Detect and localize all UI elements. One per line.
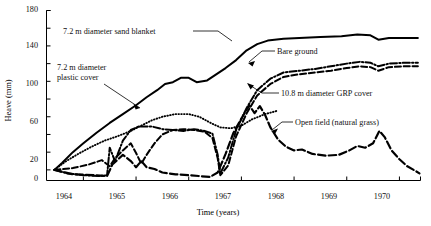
x-tick-label-1966: 1966	[150, 192, 190, 201]
chart-series-group	[54, 34, 419, 177]
y-tick-label-140: 140	[8, 41, 38, 50]
heave-vs-time-chart: Heave (mm) Time (years) 180 140 100 60 2…	[0, 0, 431, 226]
y-tick-label-180: 180	[8, 5, 38, 14]
y-tick-label-60: 60	[8, 117, 38, 126]
annotation-plastic-cover-line1: 7.2 m diameter	[57, 63, 106, 73]
annotation-sand-blanket: 7.2 m diameter sand blanket	[63, 27, 156, 37]
leader-plastic-cover	[104, 84, 140, 108]
x-axis-label: Time (years)	[178, 208, 258, 217]
annotation-bare-ground: Bare ground	[277, 47, 318, 57]
x-tick-label-1964: 1964	[44, 192, 84, 201]
leader-open-field	[272, 122, 293, 130]
x-tick-label-1970: 1970	[362, 192, 402, 201]
y-tick-label-0: 0	[8, 174, 38, 183]
y-tick-label-20: 20	[8, 155, 38, 164]
annotation-plastic-cover-line2: plastic cover	[57, 73, 99, 83]
leader-bare-ground	[249, 51, 275, 62]
annotation-open-field: Open field (natural grass)	[295, 118, 379, 128]
y-tick-label-100: 100	[8, 79, 38, 88]
x-tick-label-1969: 1969	[309, 192, 349, 201]
x-tick-label-1965: 1965	[97, 192, 137, 201]
leader-sand-blanket	[193, 31, 232, 41]
x-tick-label-1967: 1967	[203, 192, 243, 201]
x-tick-label-1968: 1968	[256, 192, 296, 201]
annotation-grp-cover: 10.8 m diameter GRP cover	[281, 89, 372, 99]
